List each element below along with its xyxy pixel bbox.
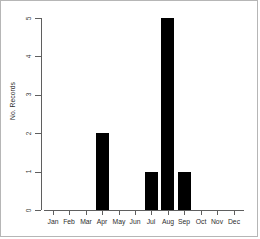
y-tick-label: 4: [25, 49, 32, 63]
y-tick-label: 1: [25, 165, 32, 179]
chart-figure: No. Records 012345 JanFebMarAprMayJunJul…: [0, 0, 258, 237]
y-tick-label: 0: [25, 203, 32, 217]
y-tick-mark: [35, 18, 41, 19]
x-tick-mark: [119, 210, 120, 215]
x-axis-line: [44, 210, 244, 211]
y-axis-line: [41, 18, 42, 210]
y-tick-mark: [35, 56, 41, 57]
y-tick-label: 5: [25, 11, 32, 25]
bar-apr: [96, 133, 109, 210]
x-tick-mark: [69, 210, 70, 215]
y-tick-label: 2: [25, 126, 32, 140]
x-tick-mark: [86, 210, 87, 215]
x-tick-mark: [234, 210, 235, 215]
x-tick-mark: [168, 210, 169, 215]
bar-aug: [161, 18, 174, 210]
y-tick-label: 3: [25, 88, 32, 102]
bars-layer: [1, 1, 259, 238]
y-tick-mark: [35, 210, 41, 211]
x-tick-mark: [102, 210, 103, 215]
x-tick-mark: [217, 210, 218, 215]
y-axis-title: No. Records: [9, 71, 17, 131]
x-tick-mark: [135, 210, 136, 215]
y-tick-mark: [35, 172, 41, 173]
x-tick-label: Dec: [221, 217, 247, 226]
y-tick-mark: [35, 133, 41, 134]
bar-sep: [178, 172, 191, 210]
x-tick-mark: [151, 210, 152, 215]
x-tick-mark: [184, 210, 185, 215]
x-tick-mark: [201, 210, 202, 215]
bar-jul: [145, 172, 158, 210]
y-tick-mark: [35, 95, 41, 96]
x-tick-mark: [53, 210, 54, 215]
